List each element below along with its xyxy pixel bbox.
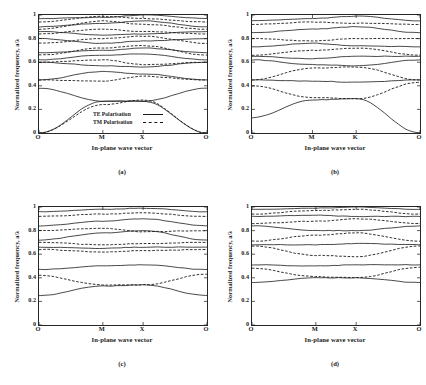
x-tick-a-2: X bbox=[140, 134, 145, 140]
legend-row-tm: TM Polarisation bbox=[93, 118, 165, 126]
band-curve bbox=[39, 54, 207, 60]
legend-row-te: TE Polarisation bbox=[93, 110, 165, 118]
panel-caption-d: (d) bbox=[251, 360, 419, 367]
x-tick-d-1: M bbox=[312, 326, 318, 332]
x-tick-b-0: O bbox=[249, 134, 254, 140]
panel-caption-c: (c) bbox=[38, 360, 206, 367]
band-curve bbox=[39, 219, 207, 226]
y-tick-c-0: 1 bbox=[20, 203, 36, 209]
x-tick-d-0: O bbox=[249, 326, 254, 332]
x-tick-a-3: O bbox=[204, 134, 209, 140]
band-curve bbox=[39, 231, 207, 241]
y-tick-c-4: 0.2 bbox=[20, 297, 36, 303]
band-curve bbox=[252, 219, 420, 224]
x-axis-label-a: In-plane wave vector bbox=[38, 144, 206, 151]
y-tick-d-4: 0.2 bbox=[233, 297, 249, 303]
band-curve bbox=[252, 265, 420, 266]
y-tick-d-1: 0.8 bbox=[233, 227, 249, 233]
legend-line-te bbox=[143, 114, 163, 115]
band-curve bbox=[39, 46, 207, 56]
x-tick-c-3: O bbox=[204, 326, 209, 332]
panel-b: Normalized frequency, a/λ 10.80.60.40.20… bbox=[213, 0, 426, 192]
y-axis-ticks-c: 10.80.60.40.20 bbox=[18, 192, 36, 337]
band-curve bbox=[39, 228, 207, 232]
panel-c: Normalized frequency, a/λ 10.80.60.40.20… bbox=[0, 192, 213, 384]
y-tick-a-4: 0.2 bbox=[20, 105, 36, 111]
band-curve bbox=[252, 246, 420, 257]
y-tick-a-3: 0.4 bbox=[20, 82, 36, 88]
band-curve bbox=[252, 233, 420, 241]
plot-area-c bbox=[38, 206, 208, 326]
band-curve bbox=[39, 208, 207, 212]
y-tick-a-2: 0.6 bbox=[20, 58, 36, 64]
panel-caption-a: (a) bbox=[38, 168, 206, 175]
y-axis-ticks-d: 10.80.60.40.20 bbox=[231, 192, 249, 337]
y-tick-a-5: 0 bbox=[20, 129, 36, 135]
y-tick-c-1: 0.8 bbox=[20, 227, 36, 233]
x-tick-c-2: X bbox=[140, 326, 145, 332]
band-curve bbox=[39, 285, 207, 296]
panel-a: Normalized frequency, a/λ 10.80.60.40.20… bbox=[0, 0, 213, 192]
band-curve bbox=[252, 99, 420, 133]
band-curve bbox=[252, 215, 420, 217]
band-curve bbox=[252, 60, 420, 66]
band-curve bbox=[39, 213, 207, 217]
panel-caption-b: (b) bbox=[251, 168, 419, 175]
band-curve bbox=[252, 226, 420, 231]
y-tick-c-3: 0.4 bbox=[20, 274, 36, 280]
legend-label-te: TE Polarisation bbox=[93, 111, 131, 117]
y-tick-b-2: 0.6 bbox=[233, 58, 249, 64]
band-curve bbox=[252, 56, 420, 59]
band-curve bbox=[39, 274, 207, 285]
band-curve bbox=[252, 209, 420, 214]
legend-label-tm: TM Polarisation bbox=[93, 119, 132, 125]
band-curve bbox=[252, 67, 420, 80]
band-curve bbox=[39, 265, 207, 270]
band-curve bbox=[252, 243, 420, 245]
x-axis-ticks-c: OMXO bbox=[38, 326, 206, 336]
band-curve bbox=[39, 242, 207, 244]
x-tick-b-3: O bbox=[417, 134, 422, 140]
band-curve bbox=[252, 22, 420, 25]
band-curve bbox=[252, 43, 420, 47]
y-axis-ticks-b: 10.80.60.40.20 bbox=[231, 0, 249, 145]
y-tick-d-2: 0.6 bbox=[233, 250, 249, 256]
x-axis-ticks-d: OMXO bbox=[251, 326, 419, 336]
x-axis-label-b: In-plane wave vector bbox=[251, 144, 419, 151]
band-curve bbox=[252, 207, 420, 209]
band-curves-d bbox=[252, 207, 420, 325]
y-tick-d-3: 0.4 bbox=[233, 274, 249, 280]
band-curve bbox=[252, 38, 420, 41]
x-tick-b-1: M bbox=[308, 134, 314, 140]
panel-d: Normalized frequency, a/λ 10.80.60.40.20… bbox=[213, 192, 426, 384]
band-curve bbox=[39, 249, 207, 252]
y-tick-c-5: 0 bbox=[20, 321, 36, 327]
x-axis-ticks-b: OMKO bbox=[251, 134, 419, 144]
x-tick-a-1: M bbox=[99, 134, 105, 140]
y-axis-ticks-a: 10.80.60.40.20 bbox=[18, 0, 36, 145]
y-tick-c-2: 0.6 bbox=[20, 250, 36, 256]
band-curves-c bbox=[39, 207, 207, 325]
band-curve bbox=[252, 80, 420, 83]
plot-area-d bbox=[251, 206, 421, 326]
band-curve bbox=[252, 16, 420, 21]
band-curve bbox=[252, 278, 420, 283]
x-axis-label-c: In-plane wave vector bbox=[38, 336, 206, 343]
band-curve bbox=[39, 29, 207, 34]
x-tick-d-2: X bbox=[353, 326, 358, 332]
y-tick-b-5: 0 bbox=[233, 129, 249, 135]
legend-line-tm bbox=[143, 122, 163, 123]
band-curve bbox=[252, 27, 420, 33]
y-tick-b-0: 1 bbox=[233, 11, 249, 17]
band-curve bbox=[252, 48, 420, 55]
x-tick-c-1: M bbox=[99, 326, 105, 332]
band-curve bbox=[39, 247, 207, 249]
y-tick-d-0: 1 bbox=[233, 203, 249, 209]
x-axis-label-d: In-plane wave vector bbox=[251, 336, 419, 343]
band-curve bbox=[39, 60, 207, 65]
x-axis-ticks-a: OMXO bbox=[38, 134, 206, 144]
y-tick-a-0: 1 bbox=[20, 11, 36, 17]
band-curve bbox=[39, 88, 207, 101]
legend-a: TE Polarisation TM Polarisation bbox=[93, 110, 165, 128]
y-tick-d-5: 0 bbox=[233, 321, 249, 327]
